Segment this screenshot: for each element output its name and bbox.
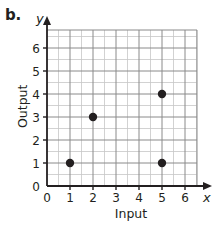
data-point [89, 113, 97, 121]
x-axis-arrow [203, 182, 212, 190]
graph-figure: b. [0, 0, 218, 226]
x-axis-title: Input [22, 208, 218, 221]
data-point [66, 159, 74, 167]
tick-marks [43, 48, 185, 190]
x-tick-label-4: 4 [131, 192, 147, 204]
x-tick-label-5: 5 [154, 192, 170, 204]
x-tick-label-1: 1 [62, 192, 78, 204]
x-tick-label-3: 3 [108, 192, 124, 204]
x-axis-variable-label: x [203, 191, 211, 204]
x-tick-label-2: 2 [85, 192, 101, 204]
y-tick-label-6: 6 [28, 43, 40, 55]
y-axis-variable-label: y [36, 12, 44, 25]
y-tick-label-1: 1 [28, 158, 40, 170]
y-tick-label-0: 0 [28, 181, 40, 193]
data-point [158, 159, 166, 167]
y-axis-title: Output [17, 85, 30, 128]
y-axis-arrow [43, 16, 51, 25]
y-tick-label-5: 5 [28, 66, 40, 78]
data-point [158, 90, 166, 98]
x-tick-label-6: 6 [177, 192, 193, 204]
y-tick-label-2: 2 [28, 135, 40, 147]
x-tick-label-0: 0 [39, 192, 55, 204]
